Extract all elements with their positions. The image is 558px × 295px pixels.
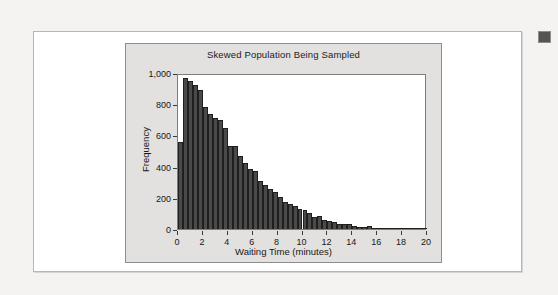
x-tick-mark — [302, 231, 303, 235]
y-tick-label: 600 — [156, 131, 171, 141]
x-tick-mark — [177, 231, 178, 235]
x-tick-mark — [227, 231, 228, 235]
x-tick-mark — [252, 231, 253, 235]
plot-area — [177, 74, 426, 230]
histogram-bar — [422, 228, 427, 229]
x-tick-mark — [376, 231, 377, 235]
y-tick-label: 1,000 — [148, 69, 171, 79]
y-tick-label: 800 — [156, 100, 171, 110]
y-tick-label: 0 — [166, 225, 171, 235]
figure-card: Skewed Population Being Sampled Frequenc… — [33, 31, 522, 272]
x-tick-mark — [202, 231, 203, 235]
x-tick-mark — [426, 231, 427, 235]
x-axis-title: Waiting Time (minutes) — [126, 246, 441, 257]
x-tick-mark — [351, 231, 352, 235]
x-tick-mark — [326, 231, 327, 235]
page-edge-marker — [538, 31, 551, 43]
chart-panel: Skewed Population Being Sampled Frequenc… — [125, 43, 442, 263]
histogram-bars — [178, 75, 425, 229]
x-tick-mark — [277, 231, 278, 235]
y-tick-label: 200 — [156, 194, 171, 204]
y-tick-label: 400 — [156, 163, 171, 173]
x-tick-mark — [401, 231, 402, 235]
